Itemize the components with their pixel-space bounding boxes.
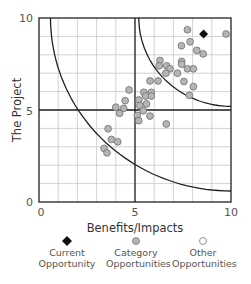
opportunity-marker	[147, 113, 154, 120]
opportunity-marker	[193, 47, 200, 54]
y-tick-10: 10	[19, 12, 33, 25]
open-circle-icon	[198, 236, 208, 246]
opportunity-marker	[135, 117, 142, 124]
y-tick-5: 5	[26, 105, 33, 118]
legend-label: Opportunity	[38, 258, 96, 269]
opportunity-marker	[155, 78, 162, 85]
legend-item-category: Category Opportunities	[106, 236, 166, 269]
opportunity-marker	[108, 136, 115, 143]
opportunity-marker	[178, 42, 185, 49]
opportunity-marker	[147, 78, 154, 85]
opportunity-marker	[126, 87, 133, 94]
opportunity-marker	[200, 50, 207, 57]
legend: Current Opportunity Category Opportuniti…	[0, 236, 251, 284]
diamond-icon	[62, 236, 72, 246]
x-tick-10: 10	[224, 206, 238, 219]
opportunity-marker	[190, 83, 197, 90]
y-axis-label: The Project	[10, 77, 24, 143]
legend-label: Opportunities	[172, 258, 234, 269]
opportunity-marker	[184, 26, 191, 33]
legend-label: Opportunities	[106, 258, 166, 269]
opportunity-marker	[148, 93, 155, 100]
grid-lines	[39, 18, 231, 202]
opportunity-marker	[105, 125, 112, 132]
opportunity-marker	[116, 110, 123, 117]
opportunity-marker	[122, 97, 129, 104]
opportunity-marker	[178, 61, 185, 68]
x-axis-label: Benefits/Impacts	[87, 221, 184, 235]
opportunity-marker	[143, 101, 150, 108]
legend-label: Current	[38, 247, 96, 258]
opportunity-marker	[174, 70, 181, 77]
opportunity-marker	[114, 138, 121, 145]
x-tick-0: 0	[38, 206, 45, 219]
x-tick-5: 5	[132, 206, 139, 219]
filled-circle-icon	[131, 236, 141, 246]
opportunity-marker	[112, 104, 119, 111]
opportunity-marker	[104, 149, 111, 156]
y-tick-0: 0	[26, 196, 33, 209]
legend-item-other: Other Opportunities	[172, 236, 234, 269]
opportunity-marker	[186, 92, 193, 99]
opportunity-marker	[156, 62, 163, 69]
legend-label: Category	[106, 247, 166, 258]
opportunity-marker	[223, 31, 230, 38]
legend-label: Other	[172, 247, 234, 258]
opportunity-marker	[187, 38, 194, 45]
opportunity-marker	[140, 107, 147, 114]
opportunity-marker	[190, 65, 197, 72]
opportunity-marker	[163, 121, 170, 128]
opportunity-marker	[163, 70, 170, 77]
current-opportunity-marker	[199, 30, 208, 39]
opportunity-marker	[181, 78, 188, 85]
legend-item-current: Current Opportunity	[38, 236, 96, 269]
